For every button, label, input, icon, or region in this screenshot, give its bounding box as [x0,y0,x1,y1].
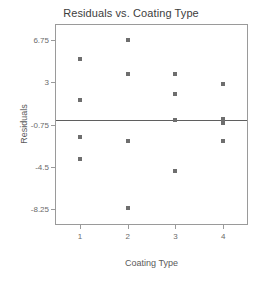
data-point [126,206,130,210]
y-axis-tick-mark [51,40,56,41]
y-axis-tick-label: -4.5 [35,162,49,171]
y-axis-label: Residuals [19,104,29,144]
x-axis-tick-label: 1 [78,232,82,241]
data-point [221,121,225,125]
x-axis-tick-label: 2 [125,232,129,241]
x-axis-tick-mark [128,224,129,229]
y-axis-tick-label: 6.75 [33,36,49,45]
data-point [126,38,130,42]
x-axis-tick-label: 4 [221,232,225,241]
data-point [173,92,177,96]
data-point [78,157,82,161]
x-axis-tick-label: 3 [173,232,177,241]
data-point [221,139,225,143]
plot-frame: 6.753-0.75-4.5-8.251234 [55,24,248,225]
data-point [173,169,177,173]
plot-area: 6.753-0.75-4.5-8.251234 [56,25,247,224]
data-point [173,72,177,76]
y-axis-tick-mark [51,209,56,210]
data-point [173,118,177,122]
residuals-scatter-chart: Residuals vs. Coating Type 6.753-0.75-4.… [0,0,262,284]
x-axis-tick-mark [175,224,176,229]
data-point [221,82,225,86]
data-point [126,72,130,76]
y-axis-tick-label: -8.25 [31,204,49,213]
y-axis-tick-label: 3 [45,78,49,87]
x-axis-tick-mark [223,224,224,229]
data-point [126,139,130,143]
zero-reference-line [56,120,247,121]
chart-title: Residuals vs. Coating Type [0,7,262,19]
y-axis-tick-label: -0.75 [31,120,49,129]
data-point [78,57,82,61]
x-axis-tick-mark [80,224,81,229]
x-axis-label: Coating Type [55,258,248,268]
data-point [78,98,82,102]
data-point [78,135,82,139]
y-axis-tick-mark [51,167,56,168]
y-axis-tick-mark [51,125,56,126]
y-axis-tick-mark [51,82,56,83]
